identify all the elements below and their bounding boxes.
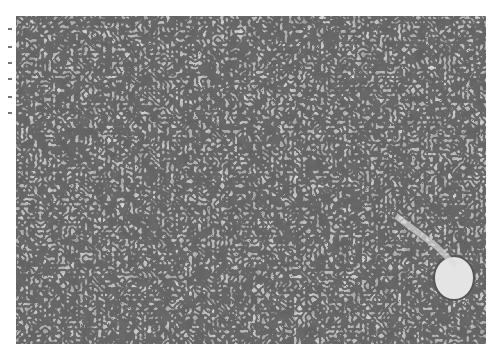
- histology-micrograph: [16, 16, 486, 344]
- margin-marks: [8, 28, 14, 128]
- micrograph-texture: [16, 16, 486, 344]
